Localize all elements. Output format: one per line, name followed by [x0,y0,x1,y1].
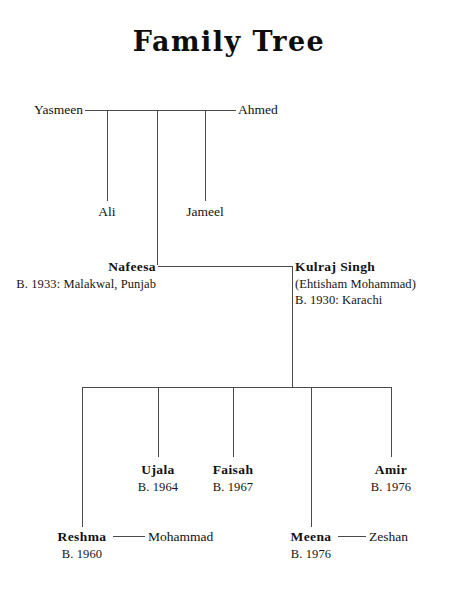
sibling-bar-g3 [82,387,392,388]
person-ali: Ali [98,203,115,221]
person-meena: Meena B. 1976 [291,528,332,562]
person-ahmed-name: Ahmed [238,101,278,119]
descent-line-meena [311,387,312,527]
marriage-line-reshma [113,536,145,537]
person-reshma-birth: B. 1960 [58,546,107,563]
person-reshma: Reshma B. 1960 [58,528,107,562]
person-jameel-name: Jameel [186,203,223,221]
person-ujala-name: Ujala [138,461,178,479]
person-ahmed: Ahmed [238,101,278,119]
family-tree-diagram: Family Tree Yasmeen Ahmed Ali Jameel Naf… [0,0,458,595]
person-yasmeen-name: Yasmeen [34,101,83,119]
person-zeshan-name: Zeshan [369,528,408,546]
person-mohammad-name: Mohammad [148,528,213,546]
person-meena-birth: B. 1976 [291,546,332,563]
person-yasmeen: Yasmeen [34,101,83,119]
descent-line-nafeesa [157,110,158,265]
person-amir-name: Amir [371,461,411,479]
person-faisah-birth: B. 1967 [213,479,254,496]
person-kulraj-singh-alias: (Ehtisham Mohammad) [295,276,416,293]
person-kulraj-singh-birth: B. 1930: Karachi [295,292,416,309]
person-meena-name: Meena [291,528,332,546]
person-zeshan: Zeshan [369,528,408,546]
person-amir-birth: B. 1976 [371,479,411,496]
person-mohammad: Mohammad [148,528,213,546]
person-nafeesa-birth: B. 1933: Malakwal, Punjab [16,276,156,293]
marriage-line-meena [338,536,366,537]
descent-line-ujala [158,387,159,457]
descent-line-jameel [205,110,206,201]
person-nafeesa: Nafeesa B. 1933: Malakwal, Punjab [16,258,156,292]
person-ali-name: Ali [98,203,115,221]
person-ujala-birth: B. 1964 [138,479,178,496]
person-kulraj-singh-name: Kulraj Singh [295,258,416,276]
person-faisah-name: Faisah [213,461,254,479]
descent-line-g2-to-g3 [292,266,293,387]
descent-line-amir [391,387,392,457]
person-kulraj-singh: Kulraj Singh (Ehtisham Mohammad) B. 1930… [295,258,416,309]
person-amir: Amir B. 1976 [371,461,411,495]
person-jameel: Jameel [186,203,223,221]
page-title: Family Tree [0,26,458,57]
descent-line-ali [107,110,108,201]
person-ujala: Ujala B. 1964 [138,461,178,495]
marriage-line-g2 [158,266,292,267]
descent-line-faisah [233,387,234,457]
person-faisah: Faisah B. 1967 [213,461,254,495]
descent-line-reshma [82,387,83,527]
person-nafeesa-name: Nafeesa [16,258,156,276]
person-reshma-name: Reshma [58,528,107,546]
